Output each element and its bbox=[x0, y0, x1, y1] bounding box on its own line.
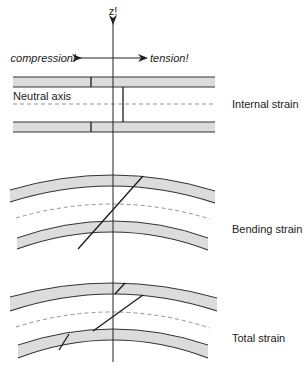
upper-beam-fill bbox=[13, 77, 215, 87]
bending-strain-label: Bending strain bbox=[232, 223, 302, 235]
z-axis-label: z! bbox=[109, 5, 118, 17]
total-strain-label: Total strain bbox=[232, 332, 285, 344]
lower-beam bbox=[13, 122, 215, 132]
tension-label: tension! bbox=[150, 52, 189, 64]
diagram-canvas: z! compression! tension! Neutral axis In… bbox=[0, 0, 306, 371]
neutral-axis-label: Neutral axis bbox=[13, 90, 72, 102]
strain-diagram: z! compression! tension! Neutral axis In… bbox=[0, 0, 306, 371]
upper-beam bbox=[13, 77, 215, 87]
compression-label: compression! bbox=[11, 52, 76, 64]
lower-beam-fill bbox=[13, 122, 215, 132]
internal-strain-label: Internal strain bbox=[232, 98, 299, 110]
panel-internal bbox=[13, 77, 215, 132]
